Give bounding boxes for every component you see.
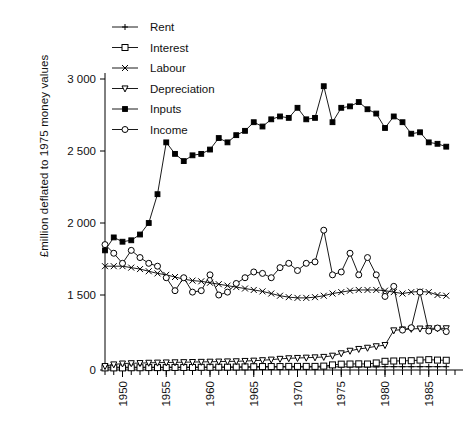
series-line [105, 230, 446, 331]
marker-circle [251, 269, 257, 275]
marker-square-filled [356, 100, 361, 105]
marker-square [268, 364, 274, 370]
legend-label-rent: Rent [150, 21, 175, 33]
y-tick-label: 0 [90, 364, 96, 376]
chart-legend: RentInterestLabourDepreciationInputsInco… [112, 21, 215, 136]
marker-square [347, 361, 353, 367]
marker-circle [408, 325, 414, 331]
marker-square-filled [208, 147, 213, 152]
marker-square [312, 363, 318, 369]
y-axis-title: £million deflated to 1975 money values [38, 26, 50, 286]
marker-square-filled [383, 126, 388, 131]
marker-square [408, 358, 414, 364]
marker-square-filled [251, 120, 256, 125]
marker-square-filled [339, 105, 344, 110]
marker-circle [102, 242, 108, 248]
marker-square-filled [435, 141, 440, 146]
marker-square-filled [269, 117, 274, 122]
marker-square [400, 358, 406, 364]
marker-circle [391, 283, 397, 289]
marker-circle [417, 289, 423, 295]
marker-square-filled [391, 114, 396, 119]
marker-square-filled [243, 128, 248, 133]
chart-figure: 01 5002 0002 5003 0001950195519601965197… [0, 0, 471, 428]
y-tick-label: 3 000 [67, 73, 96, 85]
marker-square-filled [216, 136, 221, 141]
marker-square [338, 361, 344, 367]
legend-label-income: Income [150, 124, 188, 136]
marker-circle [225, 289, 231, 295]
series-labour [102, 263, 449, 301]
marker-circle [260, 270, 266, 276]
marker-circle [172, 288, 178, 294]
marker-triangle [391, 328, 397, 334]
y-tick-label: 1 500 [67, 289, 96, 301]
marker-circle [128, 247, 134, 253]
x-tick-label: 1975 [335, 381, 347, 407]
legend-label-depreciation: Depreciation [150, 83, 215, 95]
legend-label-labour: Labour [150, 62, 186, 74]
marker-circle [207, 272, 213, 278]
marker-circle [312, 259, 318, 265]
marker-square-filled [260, 124, 265, 129]
marker-square [426, 357, 432, 363]
marker-square-filled [304, 117, 309, 122]
x-tick-label: 1980 [379, 381, 391, 407]
marker-square [435, 357, 441, 363]
marker-circle [365, 255, 371, 261]
marker-square-filled [103, 248, 108, 253]
marker-circle [321, 227, 327, 233]
marker-square-filled [111, 235, 116, 240]
marker-circle [122, 127, 128, 133]
marker-circle [426, 328, 432, 334]
series-income [102, 227, 449, 334]
marker-circle [190, 289, 196, 295]
marker-square [277, 364, 283, 370]
marker-square [417, 357, 423, 363]
x-tick-label: 1955 [160, 381, 172, 407]
marker-square [286, 363, 292, 369]
marker-circle [111, 250, 117, 256]
marker-square [443, 357, 449, 363]
marker-square-filled [164, 140, 169, 145]
marker-circle [356, 272, 362, 278]
marker-circle [216, 292, 222, 298]
marker-square [330, 362, 336, 368]
marker-circle [277, 265, 283, 271]
marker-square [295, 363, 301, 369]
marker-square [122, 45, 128, 51]
x-tick-label: 1970 [292, 381, 304, 407]
marker-square-filled [365, 107, 370, 112]
marker-square-filled [278, 114, 283, 119]
marker-square-filled [199, 151, 204, 156]
marker-square-filled [129, 238, 134, 243]
marker-square-filled [123, 107, 128, 112]
marker-circle [233, 280, 239, 286]
y-axis-ticks: 01 5002 0002 5003 000 [67, 73, 105, 376]
marker-circle [120, 260, 126, 266]
marker-circle [400, 327, 406, 333]
marker-square-filled [234, 133, 239, 138]
marker-circle [435, 325, 441, 331]
marker-circle [242, 275, 248, 281]
marker-square-filled [138, 232, 143, 237]
marker-square-filled [330, 120, 335, 125]
x-tick-label: 1950 [117, 381, 129, 407]
marker-square-filled [181, 159, 186, 164]
marker-circle [295, 268, 301, 274]
marker-circle [181, 275, 187, 281]
marker-square [356, 361, 362, 367]
legend-label-interest: Interest [150, 42, 189, 54]
marker-square-filled [190, 153, 195, 158]
line-chart-plot: 01 5002 0002 5003 0001950195519601965197… [0, 0, 471, 428]
marker-square [365, 361, 371, 367]
marker-square-filled [155, 192, 160, 197]
marker-circle [286, 260, 292, 266]
marker-square [391, 358, 397, 364]
marker-square-filled [286, 115, 291, 120]
marker-circle [137, 255, 143, 261]
marker-square-filled [348, 104, 353, 109]
marker-circle [163, 275, 169, 281]
marker-square-filled [444, 144, 449, 149]
marker-square-filled [225, 140, 230, 145]
